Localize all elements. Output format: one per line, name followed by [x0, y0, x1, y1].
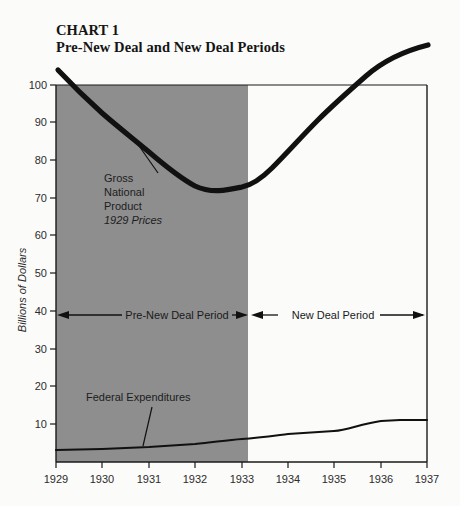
y-tick-label-50: 50: [35, 267, 47, 279]
x-tick-label-1931: 1931: [137, 473, 161, 485]
y-tick-label-60: 60: [35, 229, 47, 241]
y-tick-label-10: 10: [35, 418, 47, 430]
y-tick-label-90: 90: [35, 116, 47, 128]
y-tick-label-80: 80: [35, 154, 47, 166]
y-tick-label-30: 30: [35, 343, 47, 355]
y-tick-label-100: 100: [29, 79, 47, 91]
x-tick-marks: [56, 462, 427, 468]
x-tick-label-1929: 1929: [44, 473, 68, 485]
x-tick-label-1937: 1937: [415, 473, 439, 485]
y-axis-title: Billions of Dollars: [16, 247, 28, 332]
annotation-gnp-line3: Product: [104, 200, 142, 212]
y-tick-label-70: 70: [35, 192, 47, 204]
x-tick-label-1932: 1932: [183, 473, 207, 485]
pre-new-deal-shaded-region: [56, 85, 248, 462]
annotation-gnp-prices: 1929 Prices: [104, 214, 163, 226]
period-label-pre-new-deal: Pre-New Deal Period: [125, 309, 228, 321]
x-tick-label-1933: 1933: [230, 473, 254, 485]
x-tick-label-1930: 1930: [90, 473, 114, 485]
chart-plot-area: 100 90 80 70 60 50 40 30 20 10 Billions …: [0, 0, 460, 506]
y-tick-label-40: 40: [35, 305, 47, 317]
x-tick-label-1935: 1935: [322, 473, 346, 485]
y-tick-label-20: 20: [35, 380, 47, 392]
x-tick-label-1934: 1934: [276, 473, 300, 485]
annotation-gnp-line2: National: [104, 186, 144, 198]
period-label-new-deal: New Deal Period: [292, 309, 375, 321]
chart-figure: CHART 1 Pre-New Deal and New Deal Period…: [0, 0, 460, 506]
annotation-federal-expenditures: Federal Expenditures: [86, 391, 191, 403]
annotation-gnp-line1: Gross: [104, 172, 134, 184]
y-tick-marks: [50, 85, 56, 424]
x-tick-label-1936: 1936: [369, 473, 393, 485]
